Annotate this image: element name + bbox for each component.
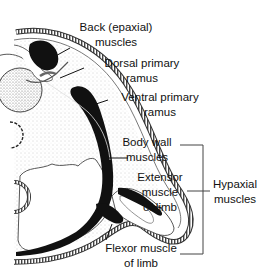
body-cavity xyxy=(18,158,110,250)
diagram-canvas: Back (epaxial) muscles Dorsal primary ra… xyxy=(0,0,264,279)
label-line: muscles xyxy=(76,35,156,50)
label-line: of limb xyxy=(96,256,186,271)
label-line: ramus xyxy=(92,71,192,86)
label-line: of limb xyxy=(130,200,190,215)
label-line: Hypaxial xyxy=(204,177,264,192)
label-line: Extensor xyxy=(130,170,190,185)
label-line: muscles xyxy=(204,192,264,207)
label-flexor-muscle: Flexor muscle of limb xyxy=(96,241,186,271)
label-line: Dorsal primary xyxy=(92,56,192,71)
label-line: ramus xyxy=(110,105,210,120)
label-line: Body wall xyxy=(112,135,182,150)
label-body-wall-muscles: Body wall muscles xyxy=(112,135,182,165)
label-line: Back (epaxial) xyxy=(76,20,156,35)
label-line: muscles xyxy=(112,150,182,165)
label-extensor-muscle: Extensor muscle of limb xyxy=(130,170,190,215)
label-line: Flexor muscle xyxy=(96,241,186,256)
label-line: muscle xyxy=(130,185,190,200)
label-dorsal-ramus: Dorsal primary ramus xyxy=(92,56,192,86)
label-ventral-ramus: Ventral primary ramus xyxy=(110,90,210,120)
label-line: Ventral primary xyxy=(110,90,210,105)
label-hypaxial-muscles: Hypaxial muscles xyxy=(204,177,264,207)
label-back-muscles: Back (epaxial) muscles xyxy=(76,20,156,50)
